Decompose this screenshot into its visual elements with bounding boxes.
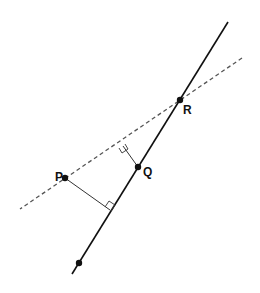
point-unlabeled [76,260,82,266]
diagram-canvas: R Q P [0,0,260,293]
label-r: R [183,103,192,117]
perpendicular-p [65,178,110,210]
perpendicular-q [123,146,138,167]
label-p: P [55,170,63,184]
point-q [135,164,141,170]
label-q: Q [143,165,152,179]
dashed-line [20,58,242,209]
solid-line [72,22,228,274]
